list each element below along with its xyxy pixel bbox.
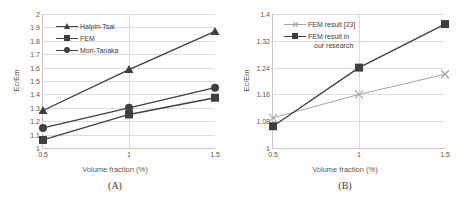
x-axis-tick-label: 1.5: [210, 151, 220, 158]
y-axis-tick-label: 1.08: [256, 118, 270, 125]
legend-label: FEM result inour research: [308, 32, 353, 50]
legend-label: FEM: [80, 34, 95, 43]
data-point-marker: [441, 20, 449, 28]
x-axis-tick-label: 1.5: [440, 151, 450, 158]
x-axis-tick-label: 0.5: [268, 151, 278, 158]
x-axis-title-b: Volume fraction (%): [230, 165, 460, 174]
y-axis-tick-label: 1.2: [30, 118, 40, 125]
data-point-marker: [39, 124, 47, 132]
data-point-marker: [355, 90, 363, 98]
x-axis-tick-label: 0.5: [38, 151, 48, 158]
data-point-marker: [211, 27, 220, 35]
legend-a: Halpin-TsaiFEMMori-Tanaka: [56, 22, 119, 58]
legend-b: FEM result [23]FEM result inour research: [284, 20, 355, 53]
y-axis-tick-label: 2: [36, 11, 40, 18]
panel-caption-b: (B): [230, 180, 460, 192]
chart-panel-b: 11.081.161.241.321.40.511.5 Volume fract…: [230, 0, 460, 199]
y-axis-title-b: Ec/Em: [242, 61, 251, 101]
y-axis-tick-label: 1.9: [30, 24, 40, 31]
data-point-marker: [39, 136, 47, 144]
legend-marker-square-icon: [56, 34, 78, 43]
x-axis-tick-label: 1: [127, 151, 131, 158]
legend-item[interactable]: Mori-Tanaka: [56, 46, 119, 55]
y-axis-tick-label: 1.7: [30, 51, 40, 58]
legend-label: FEM result [23]: [308, 20, 355, 29]
data-point-marker: [211, 94, 219, 102]
chart-panel-a: 11.11.21.31.41.51.61.71.81.920.511.5 Vol…: [0, 0, 230, 199]
y-axis-tick-label: 1.32: [256, 37, 270, 44]
y-axis-tick-label: 1.5: [30, 78, 40, 85]
series-line: [273, 74, 445, 118]
legend-marker-square-icon: [284, 32, 306, 41]
y-axis-tick-label: 1.3: [30, 104, 40, 111]
y-axis-tick-label: 1.8: [30, 37, 40, 44]
data-point-marker: [211, 84, 219, 92]
legend-item[interactable]: FEM: [56, 34, 119, 43]
legend-marker-circle-icon: [56, 46, 78, 55]
y-axis-tick-label: 1.1: [30, 131, 40, 138]
data-point-marker: [441, 70, 449, 78]
data-point-marker: [355, 64, 363, 72]
y-axis-title-a: Ec/Em: [12, 61, 21, 101]
legend-item[interactable]: Halpin-Tsai: [56, 22, 119, 31]
x-axis-title-a: Volume fraction (%): [0, 165, 230, 174]
y-axis-tick-label: 1.4: [30, 91, 40, 98]
data-point-marker: [269, 122, 277, 130]
legend-item[interactable]: FEM result inour research: [284, 32, 355, 50]
panel-caption-a: (A): [0, 180, 230, 192]
y-axis-tick-label: 1.24: [256, 64, 270, 71]
legend-item[interactable]: FEM result [23]: [284, 20, 355, 29]
data-point-marker: [125, 65, 134, 73]
y-axis-tick-label: 1.6: [30, 64, 40, 71]
x-axis-tick-label: 1: [357, 151, 361, 158]
legend-label: Mori-Tanaka: [80, 46, 119, 55]
y-axis-tick-label: 1.16: [256, 91, 270, 98]
legend-marker-triangle-icon: [56, 22, 78, 31]
figure-container: 11.11.21.31.41.51.61.71.81.920.511.5 Vol…: [0, 0, 460, 199]
legend-marker-x-icon: [284, 20, 306, 29]
data-point-marker: [125, 104, 133, 112]
legend-label: Halpin-Tsai: [80, 22, 115, 31]
y-axis-tick-label: 1.4: [260, 11, 270, 18]
